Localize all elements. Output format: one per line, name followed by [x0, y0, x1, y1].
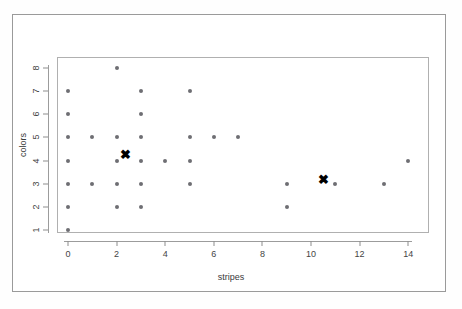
y-axis-label: colors	[18, 133, 28, 157]
screenshot-frame: ✖✖0246810121412345678 stripes colors	[0, 0, 462, 309]
x-axis-label: stripes	[0, 272, 462, 282]
plot-region-border	[57, 57, 429, 233]
